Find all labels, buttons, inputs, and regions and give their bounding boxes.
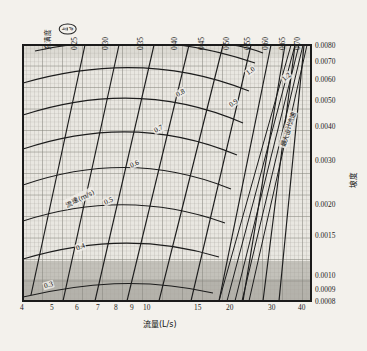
right-tick-0.0009: 0.0009 (315, 285, 335, 294)
top-tick-0.40: 0.40 (170, 37, 179, 50)
fraction-denominator: d (68, 27, 74, 30)
x-tick-20: 20 (226, 303, 233, 312)
top-tick-0.45: 0.45 (197, 37, 206, 50)
x-tick-30: 30 (268, 303, 275, 312)
bottom-axis-title: 流量(L/s) (143, 318, 177, 329)
right-tick-0.0020: 0.0020 (315, 200, 335, 209)
x-tick-7: 7 (96, 303, 100, 312)
right-tick-0.0010: 0.0010 (315, 271, 335, 280)
right-tick-0.0040: 0.0040 (315, 122, 335, 131)
x-tick-9: 9 (130, 303, 134, 312)
top-tick-0.25: 0.25 (70, 37, 79, 50)
x-tick-15: 15 (194, 303, 201, 312)
right-tick-0.0050: 0.0050 (315, 96, 335, 105)
x-tick-4: 4 (20, 303, 24, 312)
right-tick-0.0060: 0.0060 (315, 75, 335, 84)
x-tick-10: 10 (143, 303, 150, 312)
nomograph-page: 0.3 0.4 0.5 0.6 0.7 0.8 0.9 1.0 1.2 流速(m… (0, 0, 367, 351)
right-tick-0.0030: 0.0030 (315, 156, 335, 165)
top-tick-0.35: 0.35 (136, 37, 145, 50)
top-tick-0.30: 0.30 (101, 37, 110, 50)
top-tick-0.60: 0.60 (261, 37, 270, 50)
top-axis-title: 充满度 (42, 29, 52, 50)
x-tick-8: 8 (114, 303, 118, 312)
right-tick-0.0070: 0.0070 (315, 57, 335, 66)
fullness-fraction-symbol: h d (59, 23, 77, 34)
right-axis-title: 坡度 (347, 172, 358, 188)
x-tick-40: 40 (298, 303, 305, 312)
top-tick-0.50: 0.50 (222, 37, 231, 50)
top-tick-0.55: 0.55 (243, 37, 252, 50)
top-tick-0.65: 0.65 (278, 37, 287, 50)
right-tick-0.0015: 0.0015 (315, 231, 335, 240)
x-tick-5: 5 (50, 303, 54, 312)
right-tick-0.0080: 0.0080 (315, 41, 335, 50)
top-tick-0.70: 0.70 (293, 37, 302, 50)
plot-area: 0.3 0.4 0.5 0.6 0.7 0.8 0.9 1.0 1.2 流速(m… (22, 44, 312, 302)
chart-svg (23, 45, 311, 301)
x-tick-6: 6 (75, 303, 79, 312)
right-tick-0.0008: 0.0008 (315, 297, 335, 306)
